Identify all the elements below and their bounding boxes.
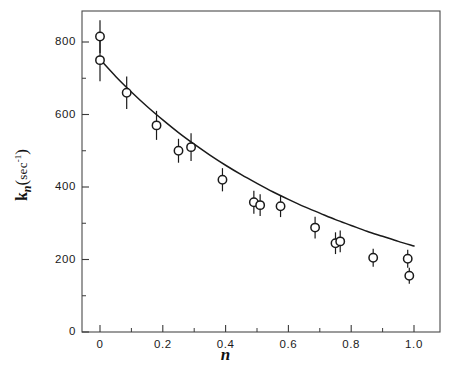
data-markers-group — [96, 32, 414, 280]
error-bars-group — [100, 20, 409, 284]
plot-frame — [82, 11, 440, 332]
data-point-marker — [122, 89, 130, 97]
fit-curve-line — [100, 59, 414, 246]
x-axis-minor-ticks — [131, 328, 382, 332]
y-axis-subscript: n — [20, 185, 34, 192]
y-axis-title: kn(sec-1) — [6, 120, 40, 230]
data-point-marker — [187, 143, 195, 151]
x-axis-title: n — [0, 345, 451, 365]
y-axis-title-text: kn(sec-1) — [13, 149, 33, 201]
data-point-marker — [311, 223, 319, 231]
data-point-marker — [152, 121, 160, 129]
data-point-marker — [405, 272, 413, 280]
y-tick-label: 400 — [34, 180, 76, 192]
y-axis-paren-open: ( — [12, 180, 31, 186]
data-point-marker — [218, 176, 226, 184]
data-point-marker — [174, 147, 182, 155]
data-point-marker — [276, 202, 284, 210]
y-axis-symbol: k — [13, 192, 30, 201]
data-point-marker — [404, 255, 412, 263]
y-tick-label: 200 — [34, 253, 76, 265]
data-point-marker — [96, 32, 104, 40]
y-tick-label: 800 — [34, 35, 76, 47]
data-point-marker — [336, 237, 344, 245]
y-axis-units: sec — [15, 162, 30, 180]
y-tick-label: 0 — [34, 325, 76, 337]
y-axis-paren-close: ) — [12, 149, 31, 155]
y-tick-label: 600 — [34, 108, 76, 120]
data-point-marker — [369, 253, 377, 261]
data-point-marker — [96, 56, 104, 64]
figure-scatter-plot: 0200400600800 00.20.40.60.81.0 kn(sec-1)… — [0, 0, 451, 371]
y-axis-units-exponent: -1 — [13, 155, 23, 163]
y-axis-major-ticks — [82, 42, 89, 332]
data-point-marker — [256, 201, 264, 209]
